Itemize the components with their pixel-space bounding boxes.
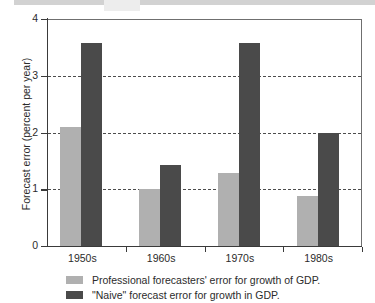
x-tick-end: [362, 247, 363, 252]
x-tick-label-1950s: 1950s: [52, 252, 112, 264]
x-tick-label-1980s: 1980s: [289, 252, 349, 264]
legend-label-professional: Professional forecasters' error for grow…: [92, 274, 320, 286]
legend-item-professional: Professional forecasters' error for grow…: [66, 272, 366, 287]
y-tick-1: [41, 189, 47, 190]
bar-1970s-series1: [218, 173, 239, 246]
bar-1970s-series2: [239, 43, 260, 246]
plot-frame-right: [361, 19, 362, 247]
x-tick-label-1970s: 1970s: [210, 252, 270, 264]
x-tick-label-1960s: 1960s: [131, 252, 191, 264]
bar-1950s-series2: [81, 43, 102, 246]
bar-1960s-series2: [160, 165, 181, 246]
y-tick-2: [41, 133, 47, 134]
legend-swatch-light-icon: [66, 276, 83, 284]
bar-1980s-series2: [318, 133, 339, 247]
legend-swatch-dark-icon: [66, 291, 83, 299]
y-tick-0: [41, 246, 47, 247]
x-tick-1: [126, 247, 127, 252]
bar-1960s-series1: [139, 189, 160, 246]
y-axis-title: Forecast error (percent per year): [20, 34, 32, 234]
chart-legend: Professional forecasters' error for grow…: [66, 272, 366, 302]
scan-artifact-band: [14, 0, 375, 5]
y-tick-3: [41, 76, 47, 77]
bar-1980s-series1: [297, 196, 318, 246]
bar-chart-figure: 01234 Forecast error (percent per year) …: [0, 0, 375, 303]
y-tick-4: [41, 19, 47, 20]
scan-artifact-patch: [104, 0, 140, 11]
y-tick-label-0: 0: [22, 240, 38, 250]
legend-item-naive: "Naive" forecast error for growth in GDP…: [66, 287, 366, 302]
x-tick-2: [205, 247, 206, 252]
bar-1950s-series1: [60, 127, 81, 246]
y-tick-label-4: 4: [22, 13, 38, 23]
x-tick-3: [283, 247, 284, 252]
plot-frame-top: [47, 19, 362, 20]
legend-label-naive: "Naive" forecast error for growth in GDP…: [92, 289, 280, 301]
